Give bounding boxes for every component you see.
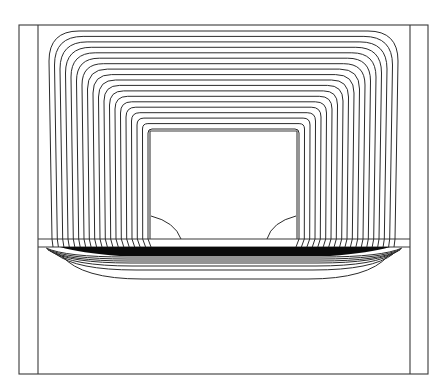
- flux-contour-line: [82, 64, 365, 239]
- flux-contour-gap-left: [127, 239, 130, 247]
- flux-contour-gap-left: [79, 239, 81, 247]
- flux-contour-gap-left: [121, 239, 124, 247]
- dense-flux-band: [60, 247, 390, 256]
- flux-contour-gap-left: [68, 239, 69, 247]
- flux-contour-gap-right: [372, 239, 374, 247]
- flux-contour-gap-left: [95, 239, 97, 247]
- flux-contour-gap-left: [137, 239, 140, 247]
- flux-contour-gap-right: [389, 239, 390, 247]
- outer-frame: [19, 25, 428, 374]
- flux-contour-gap-right: [296, 239, 299, 247]
- flux-contour-gap-right: [340, 239, 342, 247]
- flux-contour-gap-left: [63, 239, 64, 247]
- flux-contour-gap-left: [148, 239, 151, 247]
- flux-diagram: [0, 0, 445, 389]
- flux-contour-line: [60, 42, 387, 239]
- upper-flux-contours: [49, 31, 398, 247]
- flux-contour-gap-left: [84, 239, 86, 247]
- flux-contour-gap-left: [143, 239, 146, 247]
- flux-contour-gap-right: [378, 239, 379, 247]
- flux-contour-gap-left: [73, 239, 75, 247]
- flux-contour-gap-right: [334, 239, 336, 247]
- frame: [19, 25, 428, 374]
- flux-contour-gap-left: [57, 239, 58, 247]
- flux-contour-line: [148, 129, 299, 239]
- flux-contour-gap-right: [301, 239, 304, 247]
- flux-contour-gap-right: [350, 239, 352, 247]
- flux-contour-line: [137, 118, 310, 239]
- window-corner-lobes: [151, 216, 296, 239]
- right-corner-lobe: [267, 216, 296, 239]
- diagram-canvas: [0, 0, 445, 389]
- window-outline: [150, 131, 297, 239]
- flux-contour-line: [71, 53, 376, 239]
- flux-contour-line: [88, 69, 360, 239]
- flux-contour-gap-right: [307, 239, 310, 247]
- flux-contour-gap-left: [132, 239, 135, 247]
- flux-contour-gap-right: [329, 239, 331, 247]
- flux-contour-gap-right: [345, 239, 347, 247]
- flux-contour-gap-right: [383, 239, 384, 247]
- flux-contour-line: [66, 47, 382, 239]
- flux-contour-gap-right: [323, 239, 326, 247]
- flux-contour-gap-left: [116, 239, 118, 247]
- dense-flux-band: [60, 247, 390, 256]
- flux-contour-gap-left: [100, 239, 102, 247]
- flux-contour-gap-right: [318, 239, 321, 247]
- flux-contour-gap-left: [105, 239, 107, 247]
- flux-contour-gap-right: [367, 239, 369, 247]
- flux-contour-line: [126, 107, 321, 239]
- flux-contour-line: [132, 113, 316, 239]
- flux-contour-line: [99, 80, 349, 239]
- flux-contour-line: [104, 85, 343, 239]
- flux-contour-gap-left: [52, 239, 53, 247]
- flux-contour-gap-left: [89, 239, 91, 247]
- flux-contour-line: [49, 31, 398, 239]
- flux-contour-gap-right: [394, 239, 395, 247]
- flux-contour-gap-right: [361, 239, 363, 247]
- flux-contour-line: [121, 102, 327, 239]
- left-corner-lobe: [151, 216, 181, 239]
- flux-contour-gap-right: [312, 239, 315, 247]
- flux-contour-gap-right: [356, 239, 358, 247]
- flux-contour-gap-left: [111, 239, 113, 247]
